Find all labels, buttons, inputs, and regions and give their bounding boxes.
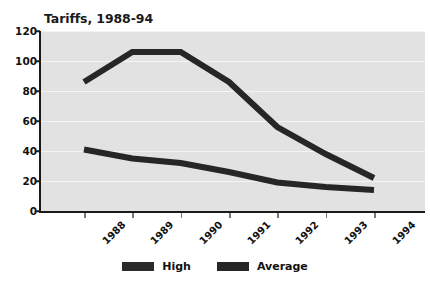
y-tick-mark	[35, 120, 40, 122]
x-tick-label: 1988	[100, 219, 127, 246]
y-tick-mark	[35, 60, 40, 62]
chart-figure: Tariffs, 1988-94 020406080100120 1988198…	[0, 0, 430, 285]
x-tick-mark	[84, 213, 86, 218]
legend-item-average: Average	[217, 260, 308, 273]
y-tick-label: 20	[1, 175, 37, 187]
y-tick-label: 60	[1, 115, 37, 127]
chart-title: Tariffs, 1988-94	[44, 11, 153, 26]
x-tick-label: 1994	[390, 219, 417, 246]
y-tick-mark	[35, 150, 40, 152]
x-tick-label: 1991	[245, 219, 272, 246]
x-tick-mark	[326, 213, 328, 218]
legend-swatch-high-icon	[122, 262, 154, 271]
y-tick-mark	[35, 30, 40, 32]
legend-label-average: Average	[257, 260, 308, 273]
x-tick-label: 1990	[197, 219, 224, 246]
gridline	[41, 91, 425, 92]
y-tick-mark	[35, 180, 40, 182]
y-tick-label: 100	[1, 55, 37, 67]
x-tick-label: 1992	[293, 219, 320, 246]
y-tick-label: 120	[1, 25, 37, 37]
y-tick-label: 40	[1, 145, 37, 157]
gridline	[41, 151, 425, 152]
y-tick-mark	[35, 90, 40, 92]
x-tick-mark	[132, 213, 134, 218]
chart-legend: High Average	[0, 256, 430, 276]
y-tick-label: 80	[1, 85, 37, 97]
gridlines	[41, 31, 425, 211]
plot-area	[41, 31, 425, 211]
x-tick-label: 1989	[148, 219, 175, 246]
y-tick-mark	[35, 210, 40, 212]
legend-item-high: High	[122, 260, 191, 273]
x-tick-mark	[181, 213, 183, 218]
legend-swatch-average-icon	[217, 262, 249, 271]
x-axis-tick-labels: 1988198919901991199219931994	[0, 213, 430, 259]
gridline	[41, 31, 425, 32]
x-tick-mark	[277, 213, 279, 218]
x-tick-mark	[374, 213, 376, 218]
x-tick-label: 1993	[342, 219, 369, 246]
gridline	[41, 61, 425, 62]
x-tick-mark	[229, 213, 231, 218]
legend-label-high: High	[162, 260, 191, 273]
gridline	[41, 121, 425, 122]
gridline	[41, 181, 425, 182]
